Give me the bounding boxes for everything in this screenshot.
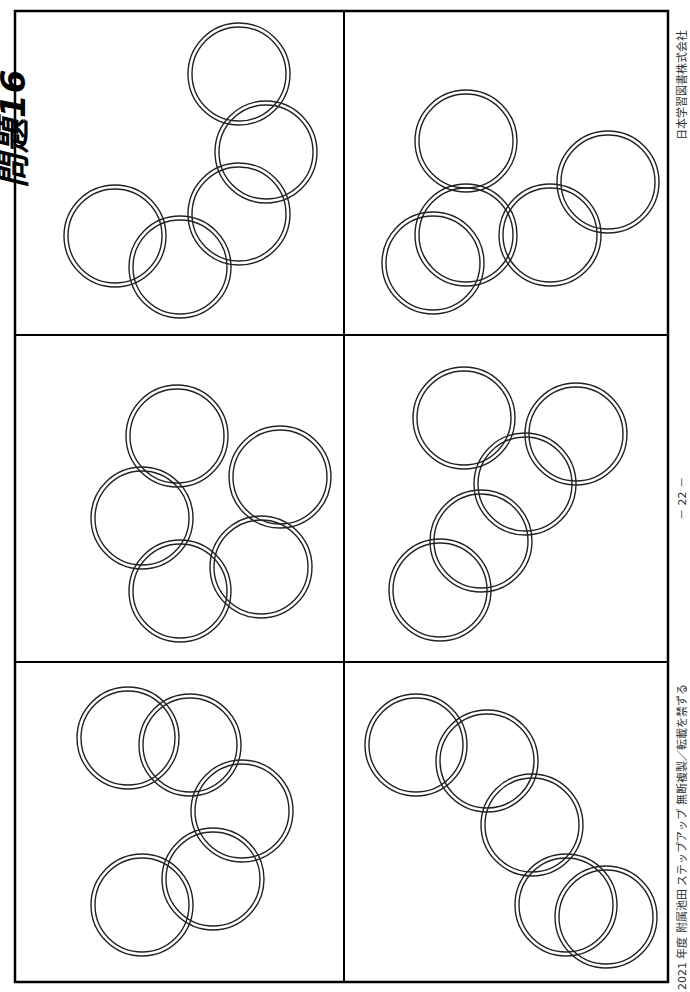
ring-outer-edge xyxy=(91,467,193,569)
ring xyxy=(389,539,491,641)
ring-inner-edge xyxy=(529,387,623,481)
panel-1 xyxy=(64,23,317,318)
ring-outer-edge xyxy=(382,212,484,314)
panel-4 xyxy=(389,367,627,641)
panel-6 xyxy=(365,694,657,968)
ring-outer-edge xyxy=(188,23,290,125)
ring-inner-edge xyxy=(393,543,487,637)
page-title: 問題16 xyxy=(0,69,35,188)
ring xyxy=(162,828,264,930)
ring-outer-edge xyxy=(77,687,179,789)
ring xyxy=(436,710,538,812)
ring xyxy=(365,694,467,796)
ring-outer-edge xyxy=(413,367,515,469)
ring xyxy=(557,131,659,233)
ring-inner-edge xyxy=(519,858,613,952)
ring-outer-edge xyxy=(191,760,293,862)
ring-inner-edge xyxy=(419,94,513,188)
ring xyxy=(77,687,179,789)
panel-2 xyxy=(382,90,659,314)
ring-outer-edge xyxy=(430,490,532,592)
ring xyxy=(91,854,193,956)
rings-layer xyxy=(64,23,659,968)
ring-inner-edge xyxy=(143,698,237,792)
ring-outer-edge xyxy=(129,216,231,318)
ring xyxy=(191,760,293,862)
ring-outer-edge xyxy=(389,539,491,641)
ring-outer-edge xyxy=(525,383,627,485)
ring-inner-edge xyxy=(192,27,286,121)
ring xyxy=(499,184,601,286)
ring-outer-edge xyxy=(557,131,659,233)
ring-outer-edge xyxy=(415,90,517,192)
ring-inner-edge xyxy=(133,220,227,314)
ring xyxy=(229,426,331,528)
panel-3 xyxy=(91,385,331,642)
ring-inner-edge xyxy=(369,698,463,792)
ring-inner-edge xyxy=(130,389,224,483)
ring-inner-edge xyxy=(68,189,162,283)
ring xyxy=(430,490,532,592)
panel-5 xyxy=(77,687,293,956)
worksheet xyxy=(0,0,690,992)
ring xyxy=(91,467,193,569)
ring-outer-edge xyxy=(162,828,264,930)
ring-inner-edge xyxy=(386,216,480,310)
ring-inner-edge xyxy=(561,135,655,229)
ring xyxy=(129,216,231,318)
ring-inner-edge xyxy=(478,437,572,531)
page-number: － 22 － xyxy=(673,477,689,520)
ring xyxy=(188,163,290,265)
ring xyxy=(64,185,166,287)
ring xyxy=(474,433,576,535)
ring xyxy=(382,212,484,314)
ring-inner-edge xyxy=(417,371,511,465)
ring xyxy=(415,90,517,192)
ring-inner-edge xyxy=(95,471,189,565)
ring-outer-edge xyxy=(139,694,241,796)
ring-outer-edge xyxy=(229,426,331,528)
ring xyxy=(215,101,317,203)
ring-outer-edge xyxy=(365,694,467,796)
ring-inner-edge xyxy=(559,870,653,964)
ring-inner-edge xyxy=(195,764,289,858)
ring-inner-edge xyxy=(440,714,534,808)
ring-inner-edge xyxy=(219,105,313,199)
ring-outer-edge xyxy=(215,101,317,203)
ring-inner-edge xyxy=(434,494,528,588)
ring-outer-edge xyxy=(481,774,583,876)
ring-outer-edge xyxy=(188,163,290,265)
ring xyxy=(415,184,517,286)
ring-inner-edge xyxy=(81,691,175,785)
ring-inner-edge xyxy=(95,858,189,952)
ring-outer-edge xyxy=(474,433,576,535)
ring-inner-edge xyxy=(233,430,327,524)
ring-outer-edge xyxy=(64,185,166,287)
ring-outer-edge xyxy=(499,184,601,286)
ring-outer-edge xyxy=(436,710,538,812)
ring xyxy=(481,774,583,876)
ring-inner-edge xyxy=(214,520,308,614)
ring xyxy=(188,23,290,125)
ring-outer-edge xyxy=(415,184,517,286)
ring xyxy=(139,694,241,796)
footer-copyright: 2021 年度 附属池田 ステップアップ 無断複製／転載を禁ずる xyxy=(673,684,689,990)
ring-inner-edge xyxy=(166,832,260,926)
publisher-name: 日本学習図書株式会社 xyxy=(673,30,689,140)
ring-inner-edge xyxy=(133,544,227,638)
ring xyxy=(413,367,515,469)
ring-outer-edge xyxy=(91,854,193,956)
ring-inner-edge xyxy=(192,167,286,261)
ring xyxy=(525,383,627,485)
